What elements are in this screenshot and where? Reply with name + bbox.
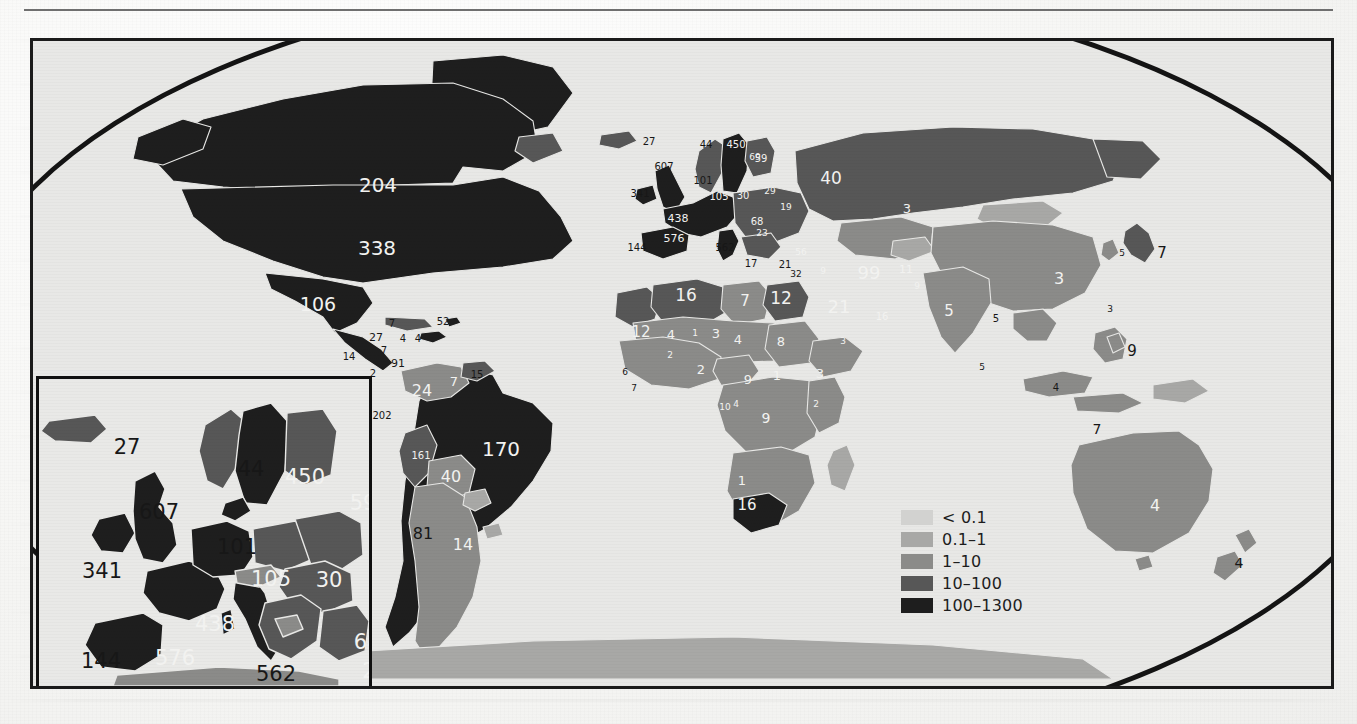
legend-swatch: [901, 554, 933, 569]
legend-label: < 0.1: [942, 508, 987, 527]
legend-swatch: [901, 576, 933, 591]
legend-item: < 0.1: [901, 507, 1023, 528]
legend-swatch: [901, 598, 933, 613]
legend-label: 1–10: [942, 552, 981, 571]
legend-item: 100–1300: [901, 595, 1023, 616]
europe-inset: .i1{fill:#d2d2d0}.i2{fill:#a8a8a6}.i3{fi…: [36, 376, 372, 689]
legend-swatch: [901, 532, 933, 547]
page-rule-line: [24, 9, 1333, 11]
legend-item: 10–100: [901, 573, 1023, 594]
country-value-label: 17: [337, 689, 364, 690]
legend-label: 10–100: [942, 574, 1002, 593]
legend-swatch: [901, 510, 933, 525]
legend-item: 0.1–1: [901, 529, 1023, 550]
world-map-frame: .c1{fill:#d2d2d0} /* < 0.1 */ .c2{fill:#…: [30, 38, 1334, 689]
europe-inset-land-shapes: .i1{fill:#d2d2d0}.i2{fill:#a8a8a6}.i3{fi…: [39, 379, 369, 686]
legend-label: 0.1–1: [942, 530, 987, 549]
legend-item: 1–10: [901, 551, 1023, 572]
legend-label: 100–1300: [942, 596, 1023, 615]
legend: < 0.10.1–11–1010–100100–1300: [901, 507, 1023, 617]
